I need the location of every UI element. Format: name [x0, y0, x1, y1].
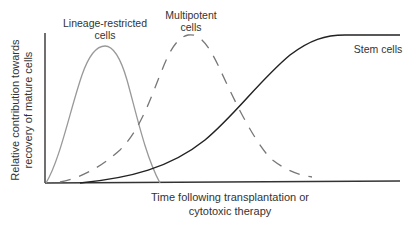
- lineage-restricted-curve: [46, 46, 160, 183]
- y-axis-label-line1: Relative contribution towards: [9, 39, 22, 180]
- stem-cells-label-text: Stem cells: [350, 43, 406, 55]
- lineage-restricted-label: Lineage-restricted cells: [62, 17, 148, 41]
- x-axis-label-line2: cytotoxic therapy: [130, 204, 330, 218]
- multipotent-label-line2: cells: [158, 21, 224, 33]
- x-axis-label: Time following transplantation or cytoto…: [130, 190, 330, 218]
- lineage-label-line1: Lineage-restricted: [62, 17, 148, 29]
- stem-cells-curve: [80, 35, 400, 183]
- lineage-label-line2: cells: [62, 29, 148, 41]
- multipotent-curve: [60, 35, 312, 182]
- stem-cells-label: Stem cells: [350, 43, 406, 55]
- x-axis-label-line1: Time following transplantation or: [130, 190, 330, 204]
- multipotent-label: Multipotent cells: [158, 9, 224, 33]
- y-axis-label-line2: recovery of mature cells: [22, 39, 35, 180]
- y-axis-label: Relative contribution towards recovery o…: [4, 30, 40, 190]
- cell-contribution-diagram: Lineage-restricted cells Multipotent cel…: [0, 0, 410, 228]
- multipotent-label-line1: Multipotent: [158, 9, 224, 21]
